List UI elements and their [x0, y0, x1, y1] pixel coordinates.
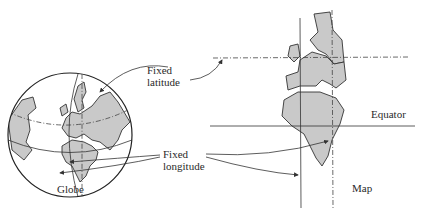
globe-label: Globe — [57, 183, 84, 195]
map-label: Map — [352, 182, 373, 194]
fixed-latitude-label-line1: Fixed — [147, 64, 173, 76]
equator-label: Equator — [371, 108, 406, 120]
fixed-latitude-arrow-to-map — [190, 60, 222, 80]
globe-figure — [8, 73, 132, 197]
fixed-longitude-arrow-to-map-2 — [206, 157, 298, 175]
fixed-latitude-label-line2: latitude — [147, 76, 180, 88]
globe-americas-shape — [8, 97, 36, 160]
globe-british-isles-shape — [60, 104, 68, 116]
fixed-longitude-label-line2: longitude — [163, 160, 205, 172]
fixed-longitude-label-line1: Fixed — [163, 148, 189, 160]
globe-vs-map-diagram: Fixed latitude Fixed longitude Equator G… — [0, 0, 427, 217]
map-british-isles-shape — [288, 44, 300, 62]
globe-scandinavia-shape — [74, 82, 86, 112]
map-africa-shape — [282, 92, 344, 166]
map-longitude-line-solid — [300, 18, 301, 208]
